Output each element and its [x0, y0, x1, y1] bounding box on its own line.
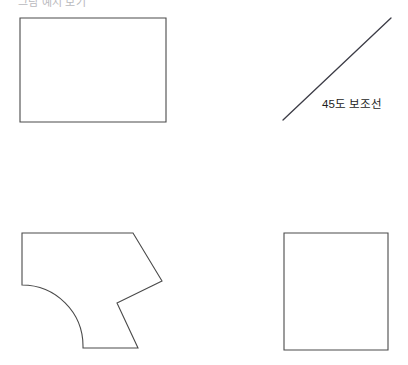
notched-polygon-shape	[22, 233, 162, 348]
figure-svg-container: 45도 보조선	[0, 0, 408, 365]
drawing-canvas: 그림 예시 보기 45도 보조선	[0, 0, 408, 365]
square-shape	[284, 233, 388, 350]
rectangle-shape	[20, 18, 166, 122]
guide-line-label: 45도 보조선	[322, 98, 382, 110]
